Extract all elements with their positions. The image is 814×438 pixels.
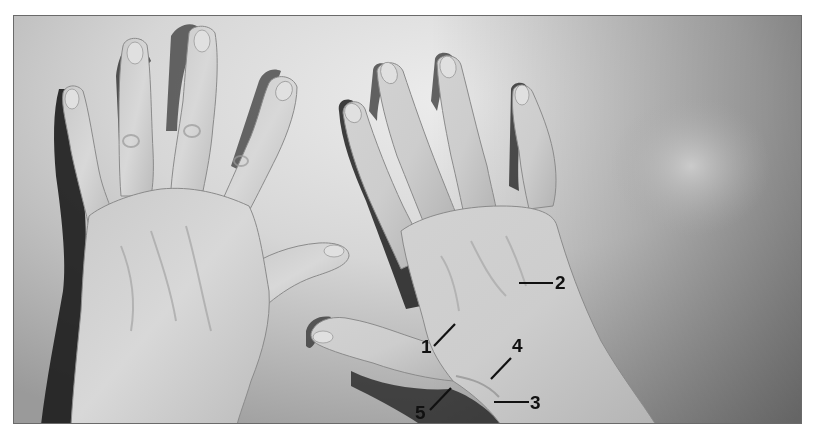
figure-photo-frame bbox=[13, 15, 802, 424]
label-1: 1 bbox=[421, 337, 432, 356]
label-3: 3 bbox=[530, 393, 541, 412]
label-2: 2 bbox=[555, 273, 566, 292]
label-4: 4 bbox=[512, 336, 523, 355]
light-glare bbox=[611, 96, 771, 236]
label-5: 5 bbox=[415, 403, 426, 422]
hands-photo bbox=[14, 16, 802, 424]
